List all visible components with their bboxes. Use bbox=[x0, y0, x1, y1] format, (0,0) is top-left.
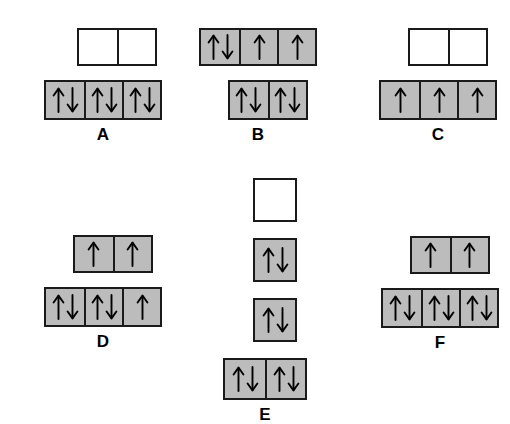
diagram-label-a: A bbox=[97, 126, 109, 143]
orbital-row-wrapper bbox=[50, 28, 157, 66]
electron-arrows bbox=[471, 87, 484, 113]
orbital-diagram-figure: ABCDEF bbox=[0, 0, 510, 424]
spin-down-arrow-icon bbox=[66, 294, 79, 320]
orbital-row-wrapper bbox=[44, 80, 162, 120]
spin-up-arrow-icon bbox=[389, 295, 402, 321]
electron-arrows bbox=[466, 295, 493, 321]
orbital-box bbox=[265, 360, 305, 398]
upper-row bbox=[408, 28, 488, 66]
orbital-row-wrapper bbox=[209, 80, 308, 120]
electron-arrows bbox=[52, 294, 79, 320]
spin-down-arrow-icon bbox=[221, 34, 234, 60]
orbital-box bbox=[457, 82, 495, 118]
diagram-label-c: C bbox=[432, 126, 444, 143]
orbital-row-wrapper bbox=[381, 288, 499, 328]
upper-row bbox=[77, 28, 157, 66]
orbital-diagram-c: C bbox=[379, 28, 497, 143]
electron-arrows bbox=[262, 247, 289, 273]
spin-up-arrow-icon bbox=[463, 242, 476, 268]
orbital-box bbox=[239, 30, 277, 64]
diagram-label-f: F bbox=[435, 334, 445, 351]
lower-row bbox=[44, 287, 162, 327]
spin-up-arrow-icon bbox=[235, 87, 248, 113]
spin-down-arrow-icon bbox=[249, 87, 262, 113]
spin-down-arrow-icon bbox=[276, 307, 289, 333]
spin-down-arrow-icon bbox=[288, 87, 301, 113]
orbital-box bbox=[459, 290, 497, 326]
orbital-row-wrapper bbox=[233, 298, 297, 342]
spin-down-arrow-icon bbox=[287, 366, 300, 392]
electron-arrows bbox=[207, 34, 234, 60]
orbital-box bbox=[79, 30, 117, 64]
orbital-box bbox=[412, 238, 450, 272]
spin-up-arrow-icon bbox=[126, 241, 139, 267]
orbital-box bbox=[46, 82, 84, 118]
orbital-box bbox=[277, 30, 315, 64]
diagram-label-b: B bbox=[252, 126, 264, 143]
orbital-box bbox=[268, 82, 306, 118]
lower-row bbox=[44, 80, 162, 120]
electron-arrows bbox=[136, 294, 149, 320]
lower-row bbox=[228, 80, 308, 120]
spin-down-arrow-icon bbox=[246, 366, 259, 392]
spin-up-arrow-icon bbox=[394, 87, 407, 113]
electron-arrows bbox=[424, 242, 437, 268]
orbital-diagram-f: F bbox=[381, 236, 499, 351]
electron-arrows bbox=[126, 241, 139, 267]
spin-up-arrow-icon bbox=[207, 34, 220, 60]
spin-up-arrow-icon bbox=[424, 242, 437, 268]
electron-arrows bbox=[394, 87, 407, 113]
orbital-row-wrapper bbox=[233, 238, 297, 282]
orbital-box bbox=[421, 290, 459, 326]
orbital-box bbox=[122, 289, 160, 325]
orbital-box bbox=[383, 290, 421, 326]
electron-arrows bbox=[87, 241, 100, 267]
orbital-box bbox=[117, 30, 155, 64]
spin-down-arrow-icon bbox=[442, 295, 455, 321]
electron-arrows bbox=[91, 87, 118, 113]
orbital-box bbox=[419, 82, 457, 118]
orbital-row-wrapper bbox=[44, 287, 162, 327]
orbital-row-wrapper bbox=[54, 235, 153, 273]
spin-down-arrow-icon bbox=[105, 294, 118, 320]
electron-arrows bbox=[129, 87, 156, 113]
level-4 bbox=[223, 358, 307, 400]
orbital-box bbox=[84, 289, 122, 325]
orbital-row-wrapper bbox=[379, 80, 497, 120]
orbital-box bbox=[450, 238, 488, 272]
spin-up-arrow-icon bbox=[274, 87, 287, 113]
electron-arrows bbox=[52, 87, 79, 113]
electron-arrows bbox=[262, 307, 289, 333]
diagram-label-d: D bbox=[97, 333, 109, 350]
orbital-box bbox=[448, 30, 486, 64]
level-2 bbox=[253, 238, 297, 282]
upper-row bbox=[73, 235, 153, 273]
orbital-box bbox=[255, 300, 295, 340]
electron-arrows bbox=[232, 366, 259, 392]
upper-row bbox=[199, 28, 317, 66]
spin-up-arrow-icon bbox=[291, 34, 304, 60]
orbital-box bbox=[230, 82, 268, 118]
orbital-diagram-d: D bbox=[44, 235, 162, 350]
lower-row bbox=[381, 288, 499, 328]
electron-arrows bbox=[291, 34, 304, 60]
electron-arrows bbox=[273, 366, 300, 392]
orbital-row-wrapper bbox=[199, 28, 317, 66]
orbital-box bbox=[255, 240, 295, 280]
spin-up-arrow-icon bbox=[91, 294, 104, 320]
spin-down-arrow-icon bbox=[105, 87, 118, 113]
spin-up-arrow-icon bbox=[136, 294, 149, 320]
spin-down-arrow-icon bbox=[480, 295, 493, 321]
orbital-row-wrapper bbox=[389, 28, 488, 66]
spin-up-arrow-icon bbox=[52, 294, 65, 320]
orbital-box bbox=[225, 360, 265, 398]
electron-arrows bbox=[91, 294, 118, 320]
lower-row bbox=[379, 80, 497, 120]
spin-up-arrow-icon bbox=[87, 241, 100, 267]
electron-arrows bbox=[463, 242, 476, 268]
orbital-row-wrapper bbox=[223, 358, 307, 400]
electron-arrows bbox=[274, 87, 301, 113]
electron-arrows bbox=[433, 87, 446, 113]
spin-up-arrow-icon bbox=[129, 87, 142, 113]
spin-down-arrow-icon bbox=[276, 247, 289, 273]
